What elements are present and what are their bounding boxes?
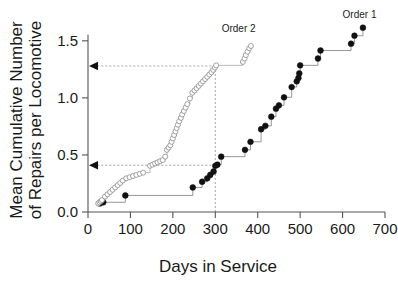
x-tick-label: 300 <box>203 220 228 237</box>
order-1-label: Order 1 <box>343 9 377 20</box>
y-tick-label: 1.5 <box>57 32 78 49</box>
y-axis-title-line1: Mean Cumulative Number <box>7 21 26 219</box>
data-point-2 <box>163 154 168 159</box>
data-point-1 <box>281 94 287 100</box>
data-point-1 <box>215 162 221 168</box>
series-layer <box>96 25 366 207</box>
data-point-2 <box>187 96 192 101</box>
y-tick-label: 0.5 <box>57 146 78 163</box>
x-axis-title: Days in Service <box>159 257 277 276</box>
data-point-1 <box>315 56 321 62</box>
y-axis-ticks: 0.00.51.01.5 <box>57 32 88 220</box>
data-point-1 <box>211 169 217 175</box>
x-tick-label: 400 <box>245 220 270 237</box>
data-point-1 <box>242 147 248 153</box>
y-tick-label: 1.0 <box>57 89 78 106</box>
axes-layer: 0.00.51.01.5 0100200300400500600700 <box>57 32 397 237</box>
order-2-label: Order 2 <box>222 23 256 34</box>
chart-canvas: 0.00.51.01.5 0100200300400500600700 Orde… <box>0 0 398 282</box>
series-step-line-1 <box>100 28 363 204</box>
data-point-1 <box>190 185 196 191</box>
x-tick-label: 200 <box>160 220 185 237</box>
data-point-1 <box>297 62 303 68</box>
x-tick-label: 600 <box>330 220 355 237</box>
data-point-1 <box>352 33 358 39</box>
data-point-1 <box>199 179 205 185</box>
data-point-1 <box>122 193 128 199</box>
x-tick-label: 500 <box>288 220 313 237</box>
annotations-layer: Order 1Order 2 <box>222 9 377 34</box>
y-axis-title-line2: of Repairs per Locomotive <box>26 21 45 219</box>
data-point-1 <box>276 102 282 108</box>
repair-history-chart: 0.00.51.01.5 0100200300400500600700 Orde… <box>0 0 398 282</box>
data-point-1 <box>289 84 295 90</box>
data-point-2 <box>248 43 253 48</box>
x-tick-label: 100 <box>118 220 143 237</box>
data-point-1 <box>268 114 274 120</box>
x-tick-label: 0 <box>84 220 92 237</box>
data-point-1 <box>348 41 354 47</box>
data-point-1 <box>318 48 324 54</box>
ref-line-upper-arrowhead <box>89 62 98 70</box>
data-point-1 <box>262 123 268 129</box>
data-point-2 <box>214 63 219 68</box>
data-point-2 <box>141 170 146 175</box>
data-point-1 <box>248 139 254 145</box>
data-point-2 <box>185 102 190 107</box>
x-axis-ticks: 0100200300400500600700 <box>84 212 398 237</box>
data-point-1 <box>218 154 224 160</box>
data-point-1 <box>296 70 302 76</box>
data-point-1 <box>360 25 366 31</box>
x-tick-label: 700 <box>372 220 397 237</box>
ref-line-lower-arrowhead <box>89 161 98 169</box>
y-tick-label: 0.0 <box>57 203 78 220</box>
